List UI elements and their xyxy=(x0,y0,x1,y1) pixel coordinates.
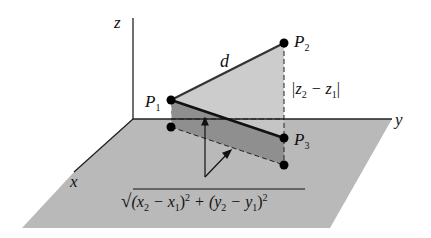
distance-diagram: z y x P1 P2 P3 d |z2 − z1| √(x2 − x1)2 +… xyxy=(0,0,431,238)
point-p1-floor xyxy=(167,123,176,132)
point-p3-floor xyxy=(280,161,289,170)
label-p1: P1 xyxy=(144,92,160,113)
point-p3 xyxy=(280,134,289,143)
y-axis-label: y xyxy=(393,110,403,129)
point-p2 xyxy=(280,39,289,48)
label-distance-d: d xyxy=(220,51,230,71)
label-p2: P2 xyxy=(293,32,309,53)
point-p1 xyxy=(167,96,176,105)
label-vertical-leg: |z2 − z1| xyxy=(291,80,340,100)
label-horizontal-leg: √(x2 − x1)2 + (y2 − y1)2 xyxy=(121,190,268,213)
x-axis-label: x xyxy=(69,172,78,191)
z-axis-label: z xyxy=(113,13,121,32)
